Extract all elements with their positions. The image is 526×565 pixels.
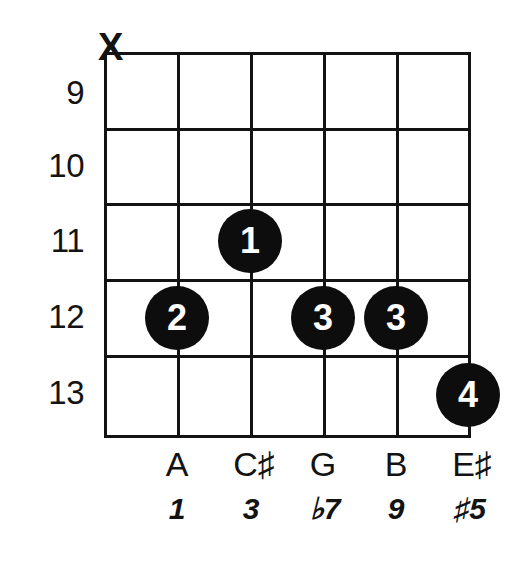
fret-number-11: 11: [14, 224, 84, 257]
finger-dot-3a[interactable]: 3: [291, 286, 355, 350]
fret-number-9: 9: [14, 76, 84, 109]
finger-dot-4[interactable]: 4: [436, 363, 500, 427]
fret-number-10: 10: [14, 149, 84, 182]
fret-line-9-10: [104, 128, 471, 131]
fret-number-13: 13: [14, 376, 84, 409]
fret-line-11-12: [104, 279, 471, 282]
fret-line-12-13: [104, 355, 471, 358]
fret-line-10-11: [104, 203, 471, 206]
fret-line-bottom: [104, 435, 471, 438]
fret-line-top: [104, 52, 471, 55]
note-label-string-6: E♯: [417, 447, 526, 481]
string-line-1: [104, 52, 107, 438]
chord-diagram: 9 10 11 12 13 X 1 2 3 3 4 A C♯ G B E♯ 1 …: [0, 0, 526, 565]
finger-dot-1[interactable]: 1: [218, 209, 282, 273]
finger-dot-2[interactable]: 2: [145, 286, 209, 350]
finger-dot-3b[interactable]: 3: [364, 286, 428, 350]
interval-label-string-6: ♯5: [415, 494, 525, 524]
string-line-2: [177, 52, 180, 438]
muted-string-x-icon: X: [98, 28, 123, 66]
string-line-4: [323, 52, 326, 438]
string-line-5: [396, 52, 399, 438]
fret-number-12: 12: [14, 300, 84, 333]
